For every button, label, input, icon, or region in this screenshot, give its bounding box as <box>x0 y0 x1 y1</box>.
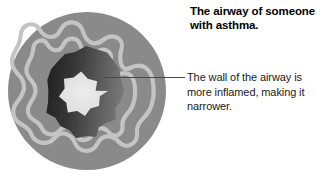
figure-caption: The wall of the airway is more inflamed,… <box>187 70 317 114</box>
figure-panel: The airway of someone with asthma. The w… <box>0 0 317 182</box>
asthma-airway-diagram <box>0 0 185 182</box>
text-column: The airway of someone with asthma. The w… <box>186 0 317 182</box>
leader-line <box>103 77 185 78</box>
figure-title: The airway of someone with asthma. <box>190 4 317 32</box>
